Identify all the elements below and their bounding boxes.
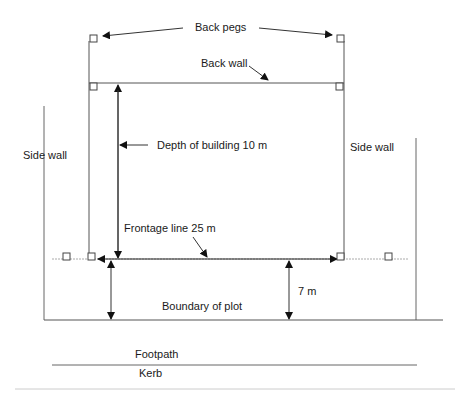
boundary-of-plot-label: Boundary of plot	[162, 301, 242, 312]
depth-of-building-label: Depth of building 10 m	[157, 140, 267, 151]
back-wall-label: Back wall	[201, 58, 247, 69]
frontage-leader-arrow	[193, 237, 207, 257]
back-peg-right	[337, 35, 344, 42]
back-wall-peg-right	[336, 83, 343, 90]
front-peg-inner-right	[337, 253, 344, 260]
front-peg-outer-right	[385, 253, 392, 260]
back-pegs-arrow-left	[103, 28, 183, 36]
side-wall-right-label: Side wall	[350, 142, 394, 153]
back-wall-peg-left	[90, 83, 97, 90]
side-wall-left-label: Side wall	[23, 150, 67, 161]
kerb-label: Kerb	[139, 368, 162, 379]
back-pegs-label: Back pegs	[195, 22, 246, 33]
front-peg-inner-left	[88, 253, 95, 260]
front-peg-outer-left	[63, 253, 70, 260]
back-wall-arrow	[249, 66, 268, 80]
setback-7m-label: 7 m	[298, 286, 316, 297]
back-peg-left	[90, 35, 97, 42]
frontage-line-label: Frontage line 25 m	[124, 223, 216, 234]
footpath-label: Footpath	[135, 349, 178, 360]
back-pegs-arrow-right	[259, 28, 332, 35]
